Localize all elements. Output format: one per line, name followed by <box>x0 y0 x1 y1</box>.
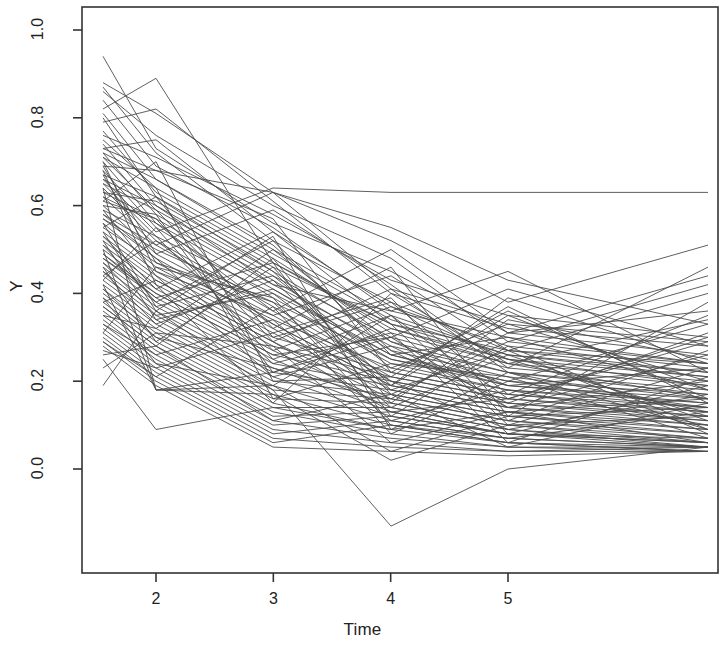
x-tick-label: 3 <box>258 590 288 608</box>
y-axis-title: Y <box>7 272 27 300</box>
trajectory-line <box>103 179 708 232</box>
trajectory-line <box>103 171 708 408</box>
y-tick-label: 0.8 <box>29 95 47 139</box>
spaghetti-plot-figure: Y Time 0.00.20.40.60.81.0 2345 <box>0 0 725 647</box>
plot-area <box>0 0 725 647</box>
trajectory-lines <box>103 56 708 526</box>
y-tick-label: 0.2 <box>29 358 47 402</box>
x-tick-label: 4 <box>376 590 406 608</box>
x-axis-title: Time <box>0 620 725 640</box>
trajectory-line <box>103 135 708 337</box>
x-tick-label: 2 <box>141 590 171 608</box>
y-tick-label: 0.6 <box>29 183 47 227</box>
plot-border <box>82 7 718 573</box>
y-tick-label: 0.0 <box>29 446 47 490</box>
axis-box <box>82 7 718 573</box>
y-tick-label: 1.0 <box>29 7 47 51</box>
y-tick-label: 0.4 <box>29 270 47 314</box>
x-tick-label: 5 <box>493 590 523 608</box>
